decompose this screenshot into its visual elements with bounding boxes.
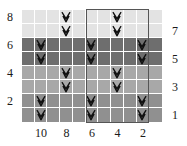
chart-cell[interactable] — [98, 66, 111, 80]
chart-cell[interactable] — [47, 66, 60, 80]
chart-cell[interactable] — [47, 10, 60, 24]
row-label-right: 3 — [167, 80, 183, 94]
chart-cell[interactable] — [124, 80, 137, 94]
chart-cell[interactable] — [137, 10, 150, 24]
chart-cell[interactable] — [86, 108, 99, 122]
chart-cell[interactable] — [137, 80, 150, 94]
slip-stitch-v-icon — [112, 25, 122, 36]
chart-cell[interactable] — [149, 52, 162, 66]
chart-cell[interactable] — [98, 38, 111, 52]
chart-cell[interactable] — [73, 24, 86, 38]
chart-cell[interactable] — [35, 10, 48, 24]
chart-cell[interactable] — [137, 24, 150, 38]
chart-cell[interactable] — [47, 108, 60, 122]
chart-cell[interactable] — [149, 10, 162, 24]
chart-cell[interactable] — [73, 94, 86, 108]
chart-cell[interactable] — [111, 108, 124, 122]
chart-cell[interactable] — [35, 94, 48, 108]
slip-stitch-v-icon — [86, 39, 96, 50]
chart-cell[interactable] — [35, 52, 48, 66]
chart-cell[interactable] — [111, 10, 124, 24]
chart-cell[interactable] — [149, 80, 162, 94]
chart-cell[interactable] — [73, 38, 86, 52]
chart-cell[interactable] — [47, 24, 60, 38]
chart-cell[interactable] — [22, 10, 35, 24]
chart-cell[interactable] — [149, 66, 162, 80]
chart-cell[interactable] — [47, 94, 60, 108]
chart-cell[interactable] — [60, 66, 73, 80]
chart-cell[interactable] — [86, 80, 99, 94]
slip-stitch-v-icon — [36, 95, 46, 106]
chart-cell[interactable] — [35, 108, 48, 122]
chart-cell[interactable] — [124, 94, 137, 108]
chart-cell[interactable] — [98, 94, 111, 108]
chart-cell[interactable] — [35, 38, 48, 52]
chart-cell[interactable] — [124, 10, 137, 24]
chart-cell[interactable] — [35, 66, 48, 80]
chart-cell[interactable] — [124, 66, 137, 80]
chart-cell[interactable] — [98, 24, 111, 38]
chart-cell[interactable] — [47, 38, 60, 52]
chart-cell[interactable] — [86, 10, 99, 24]
chart-cell[interactable] — [98, 10, 111, 24]
chart-cell[interactable] — [86, 24, 99, 38]
chart-cell[interactable] — [60, 52, 73, 66]
chart-cell[interactable] — [124, 24, 137, 38]
chart-cell[interactable] — [111, 24, 124, 38]
chart-cell[interactable] — [60, 24, 73, 38]
chart-cell[interactable] — [73, 66, 86, 80]
chart-cell[interactable] — [22, 80, 35, 94]
chart-cell[interactable] — [137, 38, 150, 52]
chart-cell[interactable] — [137, 108, 150, 122]
chart-cell[interactable] — [35, 24, 48, 38]
slip-stitch-v-icon — [86, 110, 96, 121]
chart-cell[interactable] — [98, 108, 111, 122]
chart-cell[interactable] — [137, 52, 150, 66]
chart-cell[interactable] — [60, 94, 73, 108]
chart-cell[interactable] — [86, 94, 99, 108]
chart-cell[interactable] — [98, 52, 111, 66]
chart-cell[interactable] — [60, 80, 73, 94]
chart-cell[interactable] — [137, 94, 150, 108]
chart-cell[interactable] — [22, 52, 35, 66]
chart-cell[interactable] — [111, 38, 124, 52]
chart-cell[interactable] — [60, 108, 73, 122]
chart-cell[interactable] — [111, 66, 124, 80]
chart-cell[interactable] — [22, 108, 35, 122]
chart-cell[interactable] — [98, 80, 111, 94]
chart-cell[interactable] — [137, 66, 150, 80]
chart-cell[interactable] — [22, 24, 35, 38]
chart-cell[interactable] — [149, 108, 162, 122]
chart-cell[interactable] — [111, 80, 124, 94]
row-label-left: 4 — [2, 66, 18, 80]
slip-stitch-v-icon — [61, 81, 71, 92]
chart-cell[interactable] — [86, 38, 99, 52]
chart-cell[interactable] — [22, 66, 35, 80]
chart-cell[interactable] — [73, 80, 86, 94]
chart-cell[interactable] — [149, 38, 162, 52]
chart-cell[interactable] — [47, 52, 60, 66]
column-label: 4 — [108, 126, 126, 140]
chart-cell[interactable] — [22, 94, 35, 108]
chart-cell[interactable] — [124, 108, 137, 122]
slip-stitch-v-icon — [137, 39, 147, 50]
chart-cell[interactable] — [111, 52, 124, 66]
chart-cell[interactable] — [60, 38, 73, 52]
chart-cell[interactable] — [86, 66, 99, 80]
row-label-left: 8 — [2, 10, 18, 24]
chart-cell[interactable] — [149, 24, 162, 38]
chart-cell[interactable] — [73, 52, 86, 66]
chart-cell[interactable] — [60, 10, 73, 24]
chart-cell[interactable] — [73, 10, 86, 24]
chart-cell[interactable] — [124, 52, 137, 66]
chart-cell[interactable] — [35, 80, 48, 94]
slip-stitch-v-icon — [36, 110, 46, 121]
chart-cell[interactable] — [22, 38, 35, 52]
chart-cell[interactable] — [47, 80, 60, 94]
slip-stitch-v-icon — [61, 67, 71, 78]
chart-cell[interactable] — [124, 38, 137, 52]
chart-cell[interactable] — [86, 52, 99, 66]
chart-cell[interactable] — [111, 94, 124, 108]
chart-cell[interactable] — [149, 94, 162, 108]
chart-cell[interactable] — [73, 108, 86, 122]
